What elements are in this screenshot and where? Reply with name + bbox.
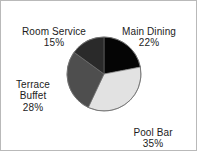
slice-label-main-dining: Main Dining 22% <box>105 14 193 60</box>
slice-label-pool-bar-name: Pool Bar <box>133 127 172 138</box>
slice-label-room-service-name: Room Service <box>22 26 86 37</box>
slice-label-terrace-buffet-percent: 28% <box>3 102 63 114</box>
slice-label-terrace-buffet-name: Terrace Buffet <box>16 79 50 102</box>
slice-label-room-service: Room Service 15% <box>7 14 101 60</box>
slice-label-main-dining-percent: 22% <box>105 37 193 49</box>
slice-label-room-service-percent: 15% <box>7 37 101 49</box>
slice-label-terrace-buffet: Terrace Buffet 28% <box>3 67 63 125</box>
pie-chart-figure: Room Service 15% Main Dining 22% Terrace… <box>0 0 197 151</box>
slice-label-pool-bar-percent: 35% <box>113 138 193 150</box>
slice-label-pool-bar: Pool Bar 35% <box>113 115 193 151</box>
slice-label-main-dining-name: Main Dining <box>122 26 176 37</box>
